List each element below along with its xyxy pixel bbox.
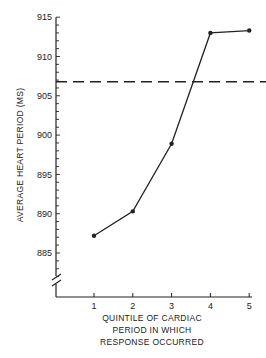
series-line [94,31,249,236]
x-tick-label: 4 [208,301,213,311]
x-axis-label: QUINTILE OF CARDIAC PERIOD IN WHICH RESP… [100,313,204,347]
data-point-marker [169,142,173,146]
x-tick-label: 1 [91,301,96,311]
y-tick-label: 885 [37,248,52,258]
data-point-marker [131,209,135,213]
line-chart: AVERAGE HEART PERIOD (MS) 91591090590089… [0,0,266,358]
data-point-marker [247,28,251,32]
data-point-marker [208,31,212,35]
y-tick-label: 900 [37,130,52,140]
y-tick-label: 910 [37,52,52,62]
data-series [92,28,252,238]
x-tick-label: 2 [130,301,135,311]
y-axis: 915910905900895890885 [37,12,61,297]
data-point-marker [92,234,96,238]
y-tick-label: 895 [37,170,52,180]
x-tick-label: 5 [247,301,252,311]
y-axis-label: AVERAGE HEART PERIOD (MS) [15,88,25,223]
y-tick-label: 915 [37,12,52,22]
y-tick-label: 905 [37,91,52,101]
y-axis-title: AVERAGE HEART PERIOD (MS) [15,88,25,223]
x-axis: 12345 [56,293,252,311]
y-tick-label: 890 [37,209,52,219]
x-axis-title-line-2: PERIOD IN WHICH [112,325,191,335]
x-tick-label: 3 [169,301,174,311]
x-axis-title-line-1: QUINTILE OF CARDIAC [102,313,202,323]
x-axis-title-line-3: RESPONSE OCCURRED [100,337,204,347]
